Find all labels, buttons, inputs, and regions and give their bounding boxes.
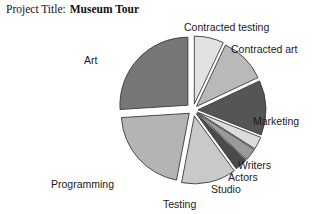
pie-label-marketing: Marketing	[253, 115, 299, 127]
project-title-value: Museum Tour	[70, 3, 139, 15]
pie-chart: Contracted testing Contracted art Market…	[0, 16, 319, 214]
pie-label-testing: Testing	[163, 198, 196, 210]
pie-slice[interactable]	[120, 37, 188, 109]
pie-label-contracted-art: Contracted art	[231, 43, 298, 55]
pie-label-writers: Writers	[238, 159, 271, 171]
project-title-row: Project Title:Museum Tour	[6, 3, 139, 16]
project-title-label: Project Title:	[6, 3, 66, 15]
pie-label-actors: Actors	[228, 171, 258, 183]
pie-label-contracted-testing: Contracted testing	[184, 21, 269, 33]
pie-label-studio: Studio	[211, 183, 241, 195]
pie-label-art: Art	[84, 54, 97, 66]
pie-chart-page: Project Title:Museum Tour Contracted tes…	[0, 0, 319, 214]
pie-label-programming: Programming	[51, 178, 114, 190]
pie-slice[interactable]	[121, 113, 189, 180]
